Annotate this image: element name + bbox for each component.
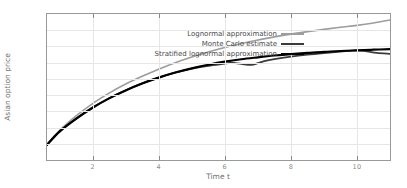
legend-label: Lognormal approximation <box>187 29 277 39</box>
x-tick-mark-top <box>159 14 160 18</box>
x-tick-label: 2 <box>90 163 94 171</box>
x-tick-label: 8 <box>289 163 293 171</box>
legend-line-swatch <box>281 53 304 56</box>
x-tick-mark <box>225 156 226 160</box>
gridline-vertical <box>357 14 358 160</box>
legend-item[interactable]: Monte Carlo estimate <box>119 39 304 49</box>
x-tick-mark <box>93 156 94 160</box>
plot-area: Lognormal approximationMonte Carlo estim… <box>46 13 391 161</box>
gridline-horizontal <box>47 128 390 129</box>
x-axis-title: Time t <box>206 172 230 181</box>
legend-line-swatch <box>281 33 304 35</box>
gridline-horizontal <box>47 95 390 96</box>
legend-line-swatch <box>281 43 304 45</box>
gridline-horizontal <box>47 111 390 112</box>
x-tick-label: 4 <box>157 163 161 171</box>
x-tick-mark-top <box>357 14 358 18</box>
gridline-vertical <box>93 14 94 160</box>
series-line <box>47 50 390 144</box>
x-tick-mark-top <box>291 14 292 18</box>
gridline-horizontal <box>47 79 390 80</box>
gridline-horizontal <box>47 63 390 64</box>
x-tick-mark-top <box>93 14 94 18</box>
y-axis-title: Asian option price <box>3 53 12 121</box>
x-tick-mark <box>291 156 292 160</box>
legend-label: Stratified lognormal approximation <box>155 49 277 59</box>
legend-item[interactable]: Stratified lognormal approximation <box>119 49 304 59</box>
figure: Asian option price 0.10.20.30.40.50.60.7… <box>0 0 407 188</box>
gridline-horizontal <box>47 144 390 145</box>
x-tick-mark <box>357 156 358 160</box>
x-tick-mark-top <box>225 14 226 18</box>
x-tick-label: 10 <box>353 163 362 171</box>
x-tick-mark <box>159 156 160 160</box>
legend-label: Monte Carlo estimate <box>202 39 277 49</box>
legend: Lognormal approximationMonte Carlo estim… <box>119 29 304 59</box>
x-tick-label: 6 <box>223 163 227 171</box>
legend-item[interactable]: Lognormal approximation <box>119 29 304 39</box>
